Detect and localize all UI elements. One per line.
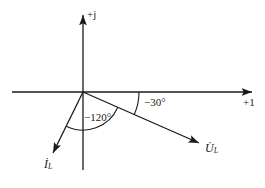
imaginary-axis-label: +j — [87, 9, 96, 20]
current-phasor-label: İL — [44, 158, 52, 171]
phasor-diagram: +j +1 −30° −120° U̇L İL — [0, 0, 265, 188]
voltage-phasor-label: U̇L — [205, 142, 218, 155]
voltage-angle-label: −30° — [144, 97, 166, 108]
current-phasor-subscript: L — [48, 162, 52, 171]
phasor-diagram-canvas — [0, 0, 265, 188]
current-phasor-line — [53, 92, 83, 153]
voltage-phasor-symbol: U̇ — [205, 141, 214, 155]
real-axis-label: +1 — [243, 97, 255, 108]
current-angle-label: −120° — [84, 112, 111, 123]
voltage-phasor-subscript: L — [214, 146, 218, 155]
angle-arc-minus-30 — [134, 92, 139, 115]
